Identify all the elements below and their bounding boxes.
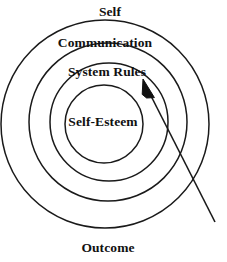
- ring-label-outcome: Outcome: [81, 241, 134, 255]
- ring-label-self-esteem: Self-Esteem: [68, 115, 137, 129]
- ring-label-communication: Communication: [58, 36, 152, 50]
- concentric-circles-diagram: Self Communication System Rules Self-Est…: [0, 0, 227, 262]
- ring-label-self: Self: [99, 5, 121, 19]
- ring-label-system-rules: System Rules: [68, 65, 146, 79]
